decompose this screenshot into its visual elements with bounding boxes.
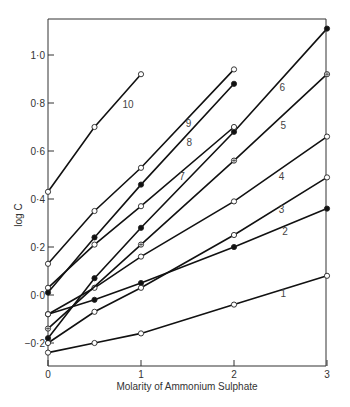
- filled-circle-marker: [231, 81, 236, 86]
- line-label: 1: [281, 288, 287, 299]
- series-7: 7: [45, 124, 236, 290]
- series-line: [48, 74, 141, 192]
- x-tick-label: 1: [138, 369, 144, 380]
- chart: −0·20·00·20·40·60·81·0 0123 log C Molari…: [0, 0, 350, 407]
- open-circle-marker: [231, 67, 236, 72]
- filled-circle-marker: [231, 244, 236, 249]
- x-axis-title: Molarity of Ammonium Sulphate: [116, 381, 258, 392]
- open-circle-marker: [324, 273, 329, 278]
- open-circle-marker: [138, 72, 143, 77]
- series-group: 12345678910: [45, 26, 329, 355]
- y-tick-label: 0·0: [31, 290, 46, 301]
- x-axis-ticks: 0123: [45, 360, 330, 380]
- plot-frame: [48, 19, 326, 366]
- filled-circle-marker: [324, 26, 329, 31]
- line-label: 6: [280, 82, 286, 93]
- x-tick-label: 3: [324, 369, 330, 380]
- y-tick-label: −0·2: [25, 338, 46, 349]
- filled-circle-marker: [45, 290, 50, 295]
- line-label: 4: [279, 171, 285, 182]
- series-6: 6: [45, 26, 329, 341]
- open-circle-marker: [92, 208, 97, 213]
- open-circle-marker: [92, 242, 97, 247]
- line-label: 3: [279, 204, 285, 215]
- y-axis-title: log C: [13, 203, 24, 226]
- filled-circle-marker: [138, 182, 143, 187]
- open-circle-marker: [92, 309, 97, 314]
- filled-circle-marker: [92, 235, 97, 240]
- y-tick-label: 0·6: [31, 146, 46, 157]
- line-label: 2: [282, 226, 288, 237]
- open-circle-marker: [231, 232, 236, 237]
- open-circle-marker: [231, 124, 236, 129]
- open-circle-marker: [231, 302, 236, 307]
- filled-circle-marker: [324, 206, 329, 211]
- open-circle-marker: [138, 204, 143, 209]
- open-circle-marker: [45, 189, 50, 194]
- series-9: 9: [45, 67, 236, 267]
- series-10: 10: [45, 72, 143, 195]
- open-circle-marker: [138, 331, 143, 336]
- open-circle-marker: [324, 134, 329, 139]
- y-tick-label: 1·0: [31, 50, 46, 61]
- x-tick-label: 0: [45, 369, 51, 380]
- y-tick-label: 0·8: [31, 98, 46, 109]
- open-circle-marker: [138, 165, 143, 170]
- line-label: 9: [186, 118, 192, 129]
- series-3: 3: [45, 175, 329, 346]
- open-circle-marker: [45, 261, 50, 266]
- open-circle-marker: [45, 312, 50, 317]
- line-label: 8: [187, 137, 193, 148]
- filled-circle-marker: [45, 336, 50, 341]
- open-circle-marker: [231, 199, 236, 204]
- y-tick-label: 0·2: [31, 242, 46, 253]
- open-circle-marker: [138, 285, 143, 290]
- x-tick-label: 2: [231, 369, 237, 380]
- open-circle-marker: [138, 254, 143, 259]
- filled-circle-marker: [138, 225, 143, 230]
- open-circle-marker: [45, 350, 50, 355]
- y-tick-label: 0·4: [31, 194, 46, 205]
- line-label: 5: [281, 120, 287, 131]
- line-label: 10: [122, 99, 134, 110]
- filled-circle-marker: [92, 297, 97, 302]
- open-circle-marker: [324, 175, 329, 180]
- line-label: 7: [179, 171, 185, 182]
- open-circle-marker: [92, 124, 97, 129]
- y-axis-ticks: −0·20·00·20·40·60·81·0: [25, 50, 54, 349]
- filled-circle-marker: [92, 276, 97, 281]
- open-circle-marker: [92, 340, 97, 345]
